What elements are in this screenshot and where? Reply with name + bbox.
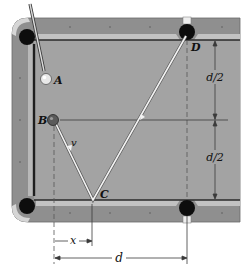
label-ball-a: A — [53, 74, 63, 87]
pocket-bottom-middle — [179, 200, 195, 216]
top-cushion — [36, 34, 180, 40]
top-cushion-right — [194, 34, 240, 40]
pocket-bottom-left — [19, 198, 35, 214]
ball-a — [41, 74, 52, 85]
bottom-cushion-right — [194, 200, 240, 206]
ball-b — [48, 115, 59, 126]
pocket-top-left — [19, 29, 35, 45]
label-d-half-lower: d/2 — [206, 151, 224, 164]
billiard-table-diagram: d/2 d/2 x d A B C D v — [0, 0, 250, 275]
label-point-c: C — [100, 188, 109, 201]
pocket-top-middle-cap — [183, 17, 191, 24]
label-x: x — [70, 234, 77, 247]
label-ball-b: B — [37, 114, 47, 127]
label-d-half-upper: d/2 — [206, 71, 224, 84]
pocket-top-middle — [179, 24, 195, 40]
label-velocity-v: v — [71, 137, 77, 148]
label-point-d: D — [190, 41, 201, 54]
label-d: d — [115, 251, 123, 265]
